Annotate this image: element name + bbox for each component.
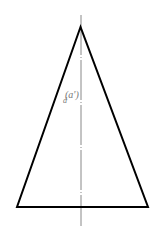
vertex-label: (a') (65, 89, 79, 101)
diagram-canvas: d (a') (0, 0, 164, 239)
triangle-outline (17, 27, 148, 207)
